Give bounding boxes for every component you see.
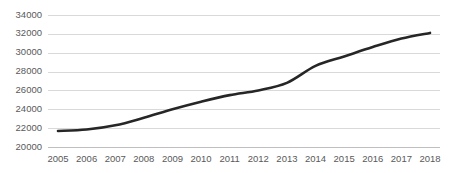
x-axis-tick-label: 2008 (133, 153, 154, 164)
x-axis-tick-label: 2010 (191, 153, 212, 164)
x-axis-tick-label: 2007 (105, 153, 126, 164)
x-axis-tick-labels: 2005200620072008200920102011201220132014… (47, 153, 440, 164)
y-axis-tick-labels: 2000022000240002600028000300003200034000 (16, 9, 42, 152)
chart-canvas: 2000022000240002600028000300003200034000… (0, 0, 453, 173)
x-axis-tick-label: 2009 (162, 153, 183, 164)
x-axis-tick-label: 2011 (219, 153, 239, 164)
x-axis-tick-label: 2012 (248, 153, 269, 164)
line-chart: 2000022000240002600028000300003200034000… (0, 0, 453, 173)
y-axis-tick-label: 20000 (16, 141, 42, 152)
x-axis-tick-label: 2016 (362, 153, 383, 164)
series-line-path (58, 33, 430, 131)
x-axis-tick-label: 2006 (76, 153, 97, 164)
y-axis-tick-label: 32000 (16, 27, 42, 38)
y-axis-tick-label: 30000 (16, 46, 42, 57)
x-axis-tick-label: 2017 (391, 153, 412, 164)
x-axis-tick-label: 2015 (334, 153, 355, 164)
x-axis-tick-label: 2013 (276, 153, 297, 164)
y-axis-tick-label: 34000 (16, 9, 42, 20)
y-axis-tick-label: 26000 (16, 84, 42, 95)
y-axis-tick-label: 22000 (16, 122, 42, 133)
x-axis-tick-label: 2014 (305, 153, 326, 164)
x-axis-tick-label: 2005 (47, 153, 68, 164)
x-axis-tick-label: 2018 (419, 153, 440, 164)
y-axis-tick-label: 28000 (16, 65, 42, 76)
y-axis-tick-label: 24000 (16, 103, 42, 114)
